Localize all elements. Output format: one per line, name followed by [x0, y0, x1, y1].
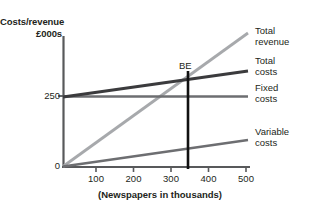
legend-label-variable-costs-line1: Variable	[255, 126, 312, 137]
legend-label-total-revenue-line2: revenue	[255, 36, 312, 47]
legend-label-total-revenue-line1: Total	[255, 25, 312, 36]
legend-item-fixed-costs: Fixed costs	[255, 82, 312, 104]
legend-label-fixed-costs-line1: Fixed	[255, 82, 312, 93]
legend-label-total-costs-line1: Total	[255, 55, 312, 66]
x-tick-label-400: 400	[194, 173, 224, 184]
legend-label-total-costs-line2: costs	[255, 66, 312, 77]
break-even-label: BE	[179, 60, 192, 71]
legend-label-fixed-costs-line2: costs	[255, 93, 312, 104]
x-tick-label-500: 500	[231, 173, 261, 184]
breakeven-chart: Costs/revenue £000s 250 0 100 200 300 40…	[0, 0, 312, 211]
series-line-total-revenue	[63, 33, 248, 167]
x-axis-title: (Newspapers in thousands)	[60, 189, 260, 200]
series-line-total-costs	[63, 71, 248, 97]
y-tick-label-0: 0	[28, 160, 60, 171]
x-tick-label-300: 300	[156, 173, 186, 184]
legend-item-variable-costs: Variable costs	[255, 126, 312, 148]
legend-item-total-revenue: Total revenue	[255, 25, 312, 47]
x-tick-label-100: 100	[81, 173, 111, 184]
series-line-variable-costs	[63, 140, 248, 167]
y-tick-label-250: 250	[28, 90, 60, 101]
legend-label-variable-costs-line2: costs	[255, 137, 312, 148]
legend-item-total-costs: Total costs	[255, 55, 312, 77]
x-tick-label-200: 200	[119, 173, 149, 184]
